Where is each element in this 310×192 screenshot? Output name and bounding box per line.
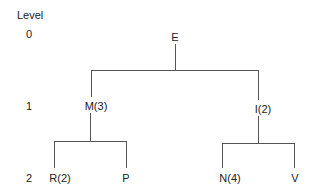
node-n: N(4) <box>219 172 240 184</box>
node-e: E <box>171 31 178 43</box>
tree-diagram: Level 0 1 2 E M(3) I(2) R(2) P N(4) V <box>0 0 310 192</box>
node-m: M(3) <box>85 100 108 112</box>
node-v: V <box>291 172 298 184</box>
node-r: R(2) <box>49 172 70 184</box>
node-p: P <box>122 172 129 184</box>
level-header: Level <box>17 9 43 21</box>
level-label-1: 1 <box>26 100 32 112</box>
level-label-0: 0 <box>26 28 32 40</box>
node-i: I(2) <box>255 103 272 115</box>
tree-edges <box>0 0 310 192</box>
level-label-2: 2 <box>26 172 32 184</box>
